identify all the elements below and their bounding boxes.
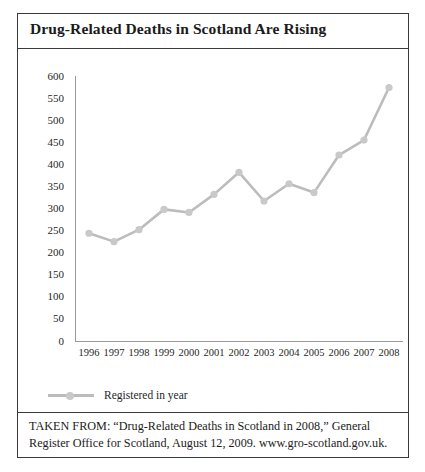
series-polyline — [89, 87, 389, 241]
data-point-1999 — [160, 206, 167, 213]
data-point-1998 — [135, 226, 142, 233]
legend-swatch-icon — [48, 389, 94, 401]
data-point-1997 — [110, 238, 117, 245]
data-point-2003 — [260, 197, 267, 204]
legend-item-label: Registered in year — [104, 389, 188, 401]
line-series-registered-in-year — [18, 49, 408, 354]
data-point-2006 — [335, 151, 342, 158]
series-markers — [85, 84, 392, 245]
data-point-2007 — [360, 136, 367, 143]
source-divider — [18, 412, 408, 413]
chart-legend: Registered in year — [48, 389, 188, 401]
figure-title-area: Drug-Related Deaths in Scotland Are Risi… — [18, 14, 408, 48]
data-point-2002 — [235, 169, 242, 176]
data-point-1996 — [85, 230, 92, 237]
data-point-2001 — [210, 191, 217, 198]
data-point-2005 — [310, 189, 317, 196]
data-point-2008 — [385, 84, 392, 91]
data-point-2004 — [285, 180, 292, 187]
figure-page: Drug-Related Deaths in Scotland Are Risi… — [0, 0, 425, 472]
data-point-2000 — [185, 209, 192, 216]
page-title: Drug-Related Deaths in Scotland Are Risi… — [30, 20, 326, 38]
figure-container: Drug-Related Deaths in Scotland Are Risi… — [17, 13, 409, 458]
chart-plot-area: 050100150200250300350400450500550600 199… — [18, 49, 408, 354]
source-attribution: TAKEN FROM: “Drug-Related Deaths in Scot… — [29, 418, 399, 452]
